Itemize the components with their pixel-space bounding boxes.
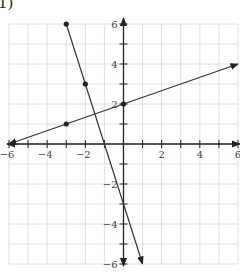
data-point (83, 81, 88, 86)
x-tick-label: 2 (158, 149, 164, 160)
y-tick-label: 6 (111, 19, 117, 30)
x-tick-label: −4 (38, 149, 53, 160)
plotted-points (64, 21, 126, 126)
coordinate-plane: −6−4−2246642−2−4−6 (0, 0, 240, 272)
data-point (64, 121, 69, 126)
y-tick-label: 4 (111, 59, 117, 70)
y-tick-label: −6 (103, 259, 118, 270)
x-tick-label: −6 (0, 149, 14, 160)
axes (7, 18, 240, 266)
data-point (121, 101, 126, 106)
data-point (64, 21, 69, 26)
y-tick-label: −4 (103, 219, 118, 230)
x-tick-label: 6 (235, 149, 240, 160)
x-tick-label: 4 (197, 149, 203, 160)
x-tick-label: −2 (76, 149, 91, 160)
